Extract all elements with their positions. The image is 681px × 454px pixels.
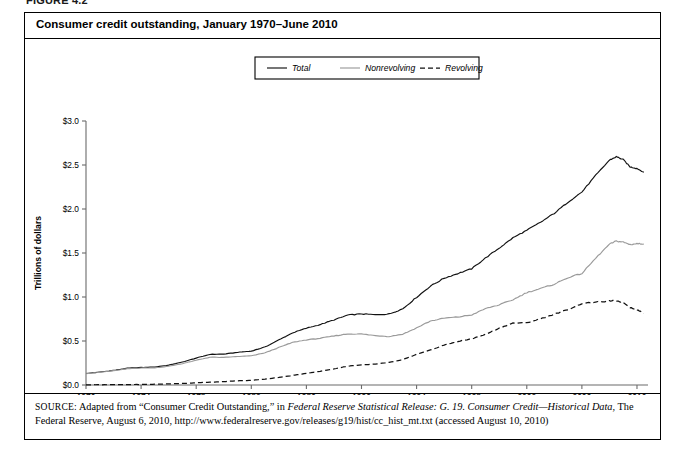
- series-line-nonrevolving: [86, 241, 644, 374]
- y-tick-label: $0.0: [63, 380, 80, 390]
- legend-label-revolving: Revolving: [445, 63, 483, 73]
- figure-page: FIGURE 4.2 Consumer credit outstanding, …: [0, 0, 681, 454]
- chart-legend: TotalNonrevolvingRevolving: [255, 57, 483, 79]
- figure-box: Consumer credit outstanding, January 197…: [24, 12, 661, 440]
- chart-axes: $0.0$0.5$1.0$1.5$2.0$2.5$3.0197019741978…: [63, 116, 648, 395]
- y-axis-title: Trillions of dollars: [33, 216, 43, 290]
- y-tick-label: $1.5: [63, 248, 80, 258]
- figure-source-bar: SOURCE: Adapted from “Consumer Credit Ou…: [25, 393, 660, 439]
- series-line-revolving: [86, 300, 644, 385]
- source-text-part1: Adapted from “Consumer Credit Outstandin…: [77, 401, 287, 412]
- source-prefix: SOURCE:: [35, 401, 77, 412]
- chart-plot-area: TotalNonrevolvingRevolving $0.0$0.5$1.0$…: [25, 39, 660, 395]
- chart-title: Consumer credit outstanding, January 197…: [36, 18, 338, 30]
- source-note: SOURCE: Adapted from “Consumer Credit Ou…: [35, 400, 652, 427]
- source-publication-title: Federal Reserve Statistical Release: G. …: [287, 401, 612, 412]
- y-tick-label: $2.0: [63, 204, 80, 214]
- legend-label-nonrevolving: Nonrevolving: [365, 63, 415, 73]
- y-tick-label: $1.0: [63, 292, 80, 302]
- series-line-total: [86, 156, 644, 373]
- consumer-credit-line-chart: TotalNonrevolvingRevolving $0.0$0.5$1.0$…: [25, 39, 659, 395]
- legend-label-total: Total: [292, 63, 311, 73]
- y-tick-label: $0.5: [63, 336, 80, 346]
- figure-number-label: FIGURE 4.2: [26, 0, 88, 4]
- chart-series: [86, 156, 644, 384]
- figure-title-bar: Consumer credit outstanding, January 197…: [25, 13, 660, 39]
- y-tick-label: $3.0: [63, 116, 80, 126]
- y-tick-label: $2.5: [63, 160, 80, 170]
- chart-axis-titles: DateTrillions of dollars: [33, 216, 377, 395]
